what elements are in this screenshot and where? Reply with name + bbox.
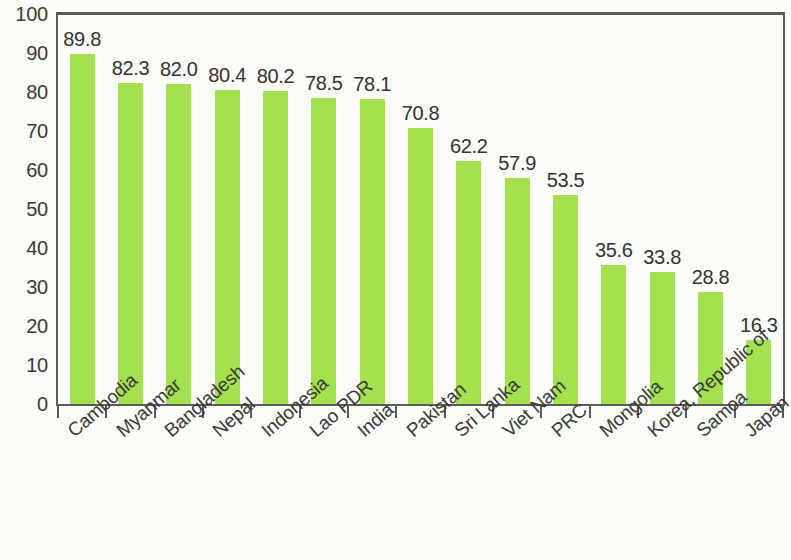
bar (70, 54, 95, 404)
bar (601, 265, 626, 404)
bar (215, 90, 240, 404)
bar (166, 84, 191, 404)
bar-value-label: 82.0 (155, 59, 203, 79)
bar-value-label: 89.8 (58, 29, 106, 49)
y-axis-tick-label: 10 (0, 355, 48, 375)
y-axis-tick-label: 20 (0, 316, 48, 336)
y-axis-tick-label: 100 (0, 4, 48, 24)
bar (360, 99, 385, 404)
bar (408, 128, 433, 404)
bar-value-label: 62.2 (445, 136, 493, 156)
y-axis-tick-label: 80 (0, 82, 48, 102)
y-axis-tick-label: 30 (0, 277, 48, 297)
y-axis-tick-label: 40 (0, 238, 48, 258)
bar (505, 178, 530, 404)
bar-value-label: 53.5 (541, 170, 589, 190)
bar (553, 195, 578, 404)
bar-value-label: 78.1 (348, 74, 396, 94)
bar-chart: 0102030405060708090100 89.882.382.080.48… (0, 0, 791, 560)
bar-value-label: 80.2 (251, 66, 299, 86)
bar-value-label: 70.8 (396, 103, 444, 123)
bar (118, 83, 143, 404)
bar (456, 161, 481, 404)
y-axis-tick-labels: 0102030405060708090100 (0, 0, 48, 560)
x-axis-category-label: PRC (548, 400, 590, 440)
bar-value-label: 82.3 (106, 58, 154, 78)
bar (263, 91, 288, 404)
x-axis-tick (57, 406, 59, 418)
y-axis-tick-label: 70 (0, 121, 48, 141)
bar-value-label: 28.8 (686, 267, 734, 287)
bar-value-label: 57.9 (493, 153, 541, 173)
y-axis-tick-label: 50 (0, 199, 48, 219)
y-axis-tick-label: 0 (0, 394, 48, 414)
bar (311, 98, 336, 404)
bar-value-label: 35.6 (590, 240, 638, 260)
y-axis-tick-label: 60 (0, 160, 48, 180)
plot-area: 89.882.382.080.480.278.578.170.862.257.9… (58, 14, 783, 404)
y-axis-tick-label: 90 (0, 43, 48, 63)
bar-value-label: 78.5 (300, 73, 348, 93)
bar-value-label: 80.4 (203, 65, 251, 85)
bar-value-label: 33.8 (638, 247, 686, 267)
